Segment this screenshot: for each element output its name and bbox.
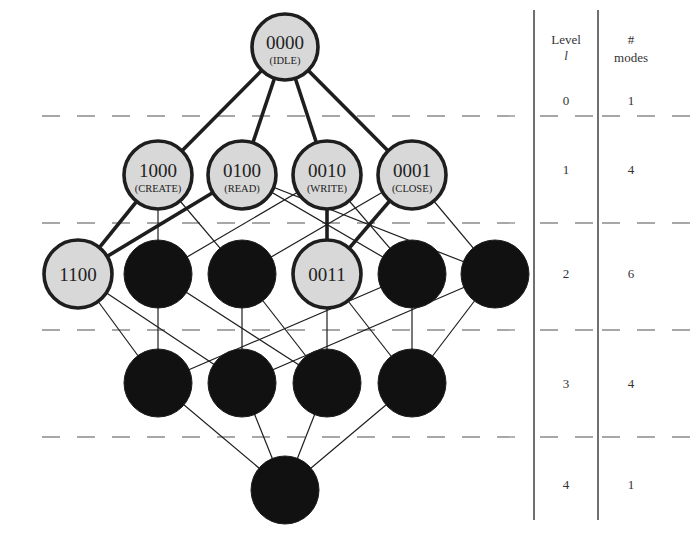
inactive-mode-circle: [124, 349, 192, 417]
mode-node-n0011: 0011: [293, 240, 361, 308]
mode-code: 0000: [266, 32, 304, 53]
mode-node-n0010: 0010(WRITE): [293, 141, 361, 209]
header-level: Level: [551, 32, 581, 47]
header-level-var: l: [564, 48, 568, 63]
mode-label: (WRITE): [307, 183, 348, 195]
mode-node-n1100: 1100: [44, 240, 112, 308]
mode-node-n0000: 0000(IDLE): [252, 14, 318, 80]
mode-code: 0010: [308, 160, 346, 181]
inactive-mode-circle: [208, 240, 276, 308]
row-3-level: 3: [563, 376, 570, 391]
mode-node-n0101: [461, 240, 529, 308]
header-modes: modes: [614, 50, 648, 65]
mode-nodes: 0000(IDLE)1000(CREATE)0100(READ)0010(WRI…: [44, 14, 529, 524]
mode-node-n0110: [378, 240, 446, 308]
row-4-level: 4: [563, 477, 570, 492]
header-modes-hash: #: [628, 32, 635, 47]
mode-label: (CREATE): [135, 183, 182, 195]
mode-node-n0001: 0001(CLOSE): [378, 141, 446, 209]
row-0-level: 0: [563, 93, 570, 108]
mode-node-n1111: [251, 456, 319, 524]
mode-code: 1100: [59, 264, 96, 285]
mode-node-n0100: 0100(READ): [208, 141, 276, 209]
row-1-modes: 4: [628, 162, 635, 177]
row-2-modes: 6: [628, 266, 635, 281]
mode-node-n1001: [208, 240, 276, 308]
mode-label: (READ): [224, 183, 260, 195]
inactive-mode-circle: [251, 456, 319, 524]
edge-n0100-n0101: [242, 175, 495, 274]
inactive-mode-circle: [461, 240, 529, 308]
mode-node-n1110: [124, 349, 192, 417]
mode-label: (CLOSE): [392, 183, 433, 195]
mode-node-n1011: [293, 349, 361, 417]
mode-node-n1101: [208, 349, 276, 417]
mode-code: 0011: [308, 264, 345, 285]
mode-node-n1010: [124, 240, 192, 308]
row-2-level: 2: [563, 266, 570, 281]
edge-n0101-n1101: [242, 274, 495, 383]
inactive-mode-circle: [378, 240, 446, 308]
inactive-mode-circle: [378, 349, 446, 417]
row-3-modes: 4: [628, 376, 635, 391]
mode-node-n1000: 1000(CREATE): [124, 141, 192, 209]
edge-n0110-n1110: [158, 274, 412, 383]
inactive-mode-circle: [208, 349, 276, 417]
mode-code: 1000: [139, 160, 177, 181]
mode-node-n0111: [378, 349, 446, 417]
row-0-modes: 1: [628, 93, 635, 108]
mode-label: (IDLE): [270, 55, 301, 67]
row-4-modes: 1: [628, 477, 635, 492]
mode-lattice-diagram: 0000(IDLE)1000(CREATE)0100(READ)0010(WRI…: [0, 0, 693, 554]
mode-code: 0001: [393, 160, 431, 181]
inactive-mode-circle: [124, 240, 192, 308]
inactive-mode-circle: [293, 349, 361, 417]
mode-code: 0100: [223, 160, 261, 181]
row-1-level: 1: [563, 162, 570, 177]
